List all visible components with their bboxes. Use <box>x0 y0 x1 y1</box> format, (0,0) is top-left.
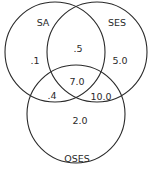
region-ses-oses: 10.0 <box>90 91 111 102</box>
venn-diagram: SA SES OSES .1 .5 5.0 7.0 .4 10.0 2.0 <box>0 0 151 171</box>
set-label-sa: SA <box>37 17 50 28</box>
region-sa-ses: .5 <box>73 43 82 54</box>
circle-sa <box>5 2 105 102</box>
region-sa-only: .1 <box>30 55 39 66</box>
region-all-three: 7.0 <box>69 76 84 87</box>
set-label-oses: OSES <box>64 153 90 164</box>
circle-ses <box>47 2 147 102</box>
region-sa-oses: .4 <box>47 90 56 101</box>
set-label-ses: SES <box>108 17 126 28</box>
region-oses-only: 2.0 <box>72 115 87 126</box>
region-ses-only: 5.0 <box>112 55 127 66</box>
